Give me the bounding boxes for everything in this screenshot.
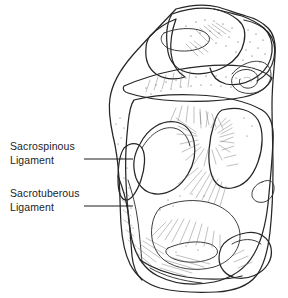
anatomical-figure: .ol { fill:none; stroke:#262626; stroke-… — [0, 0, 288, 298]
sacrospinous-label-line2: Ligament — [10, 153, 75, 167]
sacrotuberous-ligament-label: Sacrotuberous Ligament — [10, 186, 80, 214]
sacrotuberous-label-line2: Ligament — [10, 200, 80, 214]
sacrospinous-ligament-label: Sacrospinous Ligament — [10, 139, 75, 167]
sacrospinous-label-line1: Sacrospinous — [10, 139, 75, 153]
sacrotuberous-label-line1: Sacrotuberous — [10, 186, 80, 200]
